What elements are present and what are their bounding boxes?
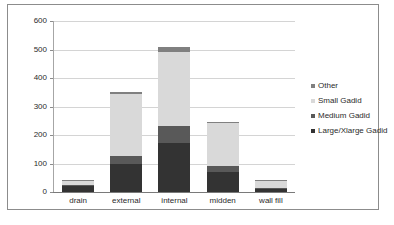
y-axis-tick-label: 0 (43, 188, 47, 196)
legend-item[interactable]: Medium Gadid (311, 109, 389, 122)
y-axis-tick (50, 50, 53, 51)
x-axis-category-label: drain (69, 197, 87, 205)
bar-group[interactable]: wall fill (247, 21, 295, 192)
figure-root: 0100200300400500600 drainexternalinterna… (0, 0, 394, 225)
legend-item-label: Other (318, 82, 338, 90)
y-axis-tick-label: 200 (34, 131, 47, 139)
y-axis-tick-label: 400 (34, 74, 47, 82)
y-axis-tick (50, 78, 53, 79)
legend-swatch-icon (311, 114, 315, 118)
legend-item[interactable]: Other (311, 79, 389, 92)
bars-layer: drainexternalinternalmiddenwall fill (54, 21, 295, 192)
x-axis-line (53, 192, 295, 193)
bar-segment[interactable] (158, 52, 190, 127)
legend-item-label: Small Gadid (318, 97, 362, 105)
y-axis-tick-label: 600 (34, 17, 47, 25)
stacked-bar[interactable] (62, 180, 94, 192)
legend-item-label: Medium Gadid (318, 112, 370, 120)
y-axis-tick-label: 500 (34, 46, 47, 54)
bar-group[interactable]: drain (54, 21, 102, 192)
bar-group[interactable]: internal (150, 21, 198, 192)
plot-area: 0100200300400500600 drainexternalinterna… (53, 21, 295, 193)
bar-segment[interactable] (110, 156, 142, 164)
bar-segment[interactable] (110, 164, 142, 192)
bar-segment[interactable] (110, 94, 142, 156)
chart-legend: OtherSmall GadidMedium GadidLarge/Xlarge… (311, 79, 389, 139)
legend-item-label: Large/Xlarge Gadid (318, 127, 387, 135)
legend-swatch-icon (311, 84, 315, 88)
legend-swatch-icon (311, 99, 315, 103)
bar-group[interactable]: external (102, 21, 150, 192)
x-axis-category-label: wall fill (259, 197, 283, 205)
legend-item[interactable]: Small Gadid (311, 94, 389, 107)
y-axis-tick (50, 192, 53, 193)
y-axis-tick (50, 21, 53, 22)
bar-segment[interactable] (158, 126, 190, 143)
bar-segment[interactable] (207, 123, 239, 166)
y-axis-tick-label: 100 (34, 160, 47, 168)
x-axis-category-label: internal (161, 197, 187, 205)
y-axis-tick-label: 300 (34, 103, 47, 111)
stacked-bar[interactable] (207, 122, 239, 192)
x-axis-category-label: external (112, 197, 140, 205)
y-axis-tick (50, 135, 53, 136)
stacked-bar[interactable] (158, 47, 190, 192)
legend-swatch-icon (311, 129, 315, 133)
x-axis-category-label: midden (210, 197, 236, 205)
legend-item[interactable]: Large/Xlarge Gadid (311, 124, 389, 137)
bar-segment[interactable] (62, 186, 94, 192)
chart-frame: 0100200300400500600 drainexternalinterna… (7, 4, 379, 210)
bar-segment[interactable] (255, 181, 287, 188)
bar-segment[interactable] (158, 143, 190, 192)
stacked-bar[interactable] (255, 180, 287, 192)
bar-group[interactable]: midden (199, 21, 247, 192)
y-axis-tick (50, 107, 53, 108)
bar-segment[interactable] (255, 189, 287, 192)
bar-segment[interactable] (207, 172, 239, 192)
stacked-bar[interactable] (110, 92, 142, 192)
y-axis-tick (50, 164, 53, 165)
